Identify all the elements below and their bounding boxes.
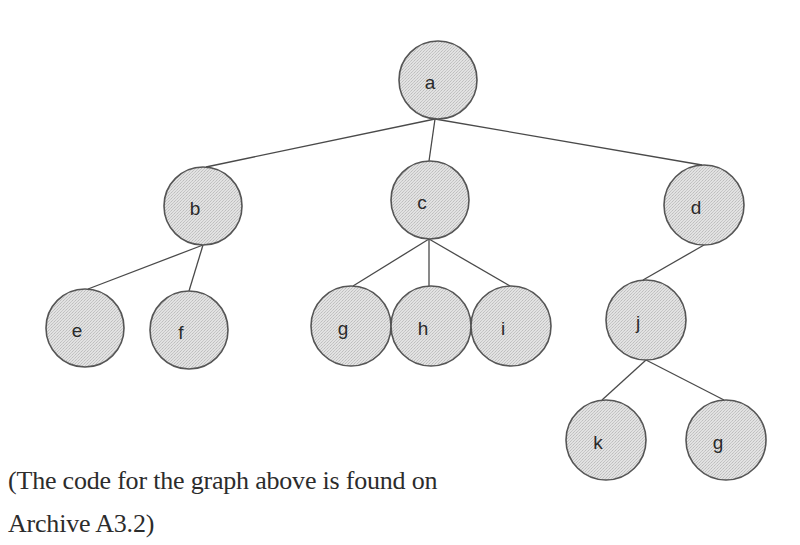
node-label-d: d [691, 197, 702, 218]
edge-c-i [429, 239, 510, 286]
node-g: g [311, 286, 391, 366]
node-circle-g2 [686, 400, 766, 480]
node-label-h: h [418, 318, 429, 339]
node-h: h [391, 286, 471, 366]
node-label-e: e [72, 320, 83, 341]
node-label-g: g [338, 318, 349, 339]
edge-j-g2 [646, 360, 724, 400]
node-f: f [150, 291, 228, 369]
edge-b-e [88, 245, 203, 289]
node-label-i: i [501, 318, 505, 339]
node-b: b [164, 167, 242, 245]
node-circle-j [606, 280, 686, 360]
node-e: e [46, 289, 124, 367]
node-circle-k [566, 400, 646, 480]
edge-d-j [643, 245, 704, 280]
nodes-layer: abcdefghijkg [46, 41, 766, 480]
node-a: a [399, 41, 477, 119]
node-i: i [471, 286, 551, 366]
node-circle-d [664, 165, 744, 245]
edge-a-c [429, 119, 435, 161]
node-g2: g [686, 400, 766, 480]
node-k: k [566, 400, 646, 480]
node-label-g2: g [713, 432, 724, 453]
node-circle-g [311, 286, 391, 366]
node-label-k: k [593, 432, 603, 453]
node-circle-e [46, 289, 124, 367]
edge-j-k [602, 360, 646, 400]
edge-c-g [353, 239, 429, 286]
node-label-a: a [425, 72, 436, 93]
node-circle-a [399, 41, 477, 119]
edge-a-d [435, 119, 702, 165]
node-j: j [606, 280, 686, 360]
caption: (The code for the graph above is found o… [8, 459, 437, 545]
node-label-f: f [178, 322, 184, 343]
node-d: d [664, 165, 744, 245]
caption-line-2: Archive A3.2) [8, 502, 437, 545]
node-label-c: c [417, 192, 427, 213]
node-label-b: b [190, 198, 201, 219]
node-c: c [391, 161, 469, 239]
node-circle-h [391, 286, 471, 366]
node-circle-c [391, 161, 469, 239]
node-circle-f [150, 291, 228, 369]
edge-a-b [206, 119, 435, 167]
node-circle-i [471, 286, 551, 366]
node-circle-b [164, 167, 242, 245]
edge-b-f [189, 245, 203, 291]
node-label-j: j [635, 312, 640, 333]
caption-line-1: (The code for the graph above is found o… [8, 459, 437, 502]
